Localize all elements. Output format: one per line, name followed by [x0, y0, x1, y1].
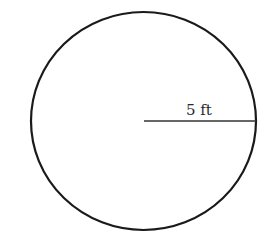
radius-label: 5 ft — [186, 101, 212, 119]
circle-diagram: 5 ft — [0, 0, 266, 245]
